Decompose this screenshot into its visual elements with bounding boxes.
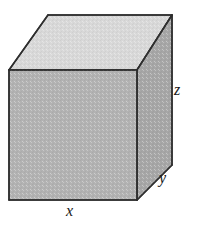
dimension-label-z: z [174,82,180,98]
dimension-label-y: y [159,170,166,186]
dimension-label-x: x [66,203,73,219]
cube-illustration [0,0,198,229]
cube-figure: x y z [0,0,198,229]
cube-front-face-texture [9,70,137,200]
